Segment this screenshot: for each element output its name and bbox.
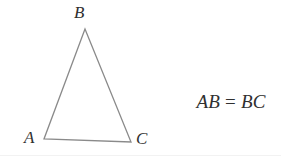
equation-ab-equals-bc: AB=BC	[177, 71, 266, 134]
triangle-abc-outline	[44, 29, 131, 142]
equals-sign: =	[220, 91, 241, 112]
geometry-figure: B A C AB=BC	[0, 0, 281, 158]
equation-right-term: BC	[241, 91, 266, 112]
vertex-label-a: A	[24, 129, 34, 146]
vertex-label-c: C	[136, 130, 147, 147]
bottom-divider	[0, 155, 281, 156]
equation-left-term: AB	[196, 91, 220, 112]
vertex-label-b: B	[74, 4, 84, 21]
